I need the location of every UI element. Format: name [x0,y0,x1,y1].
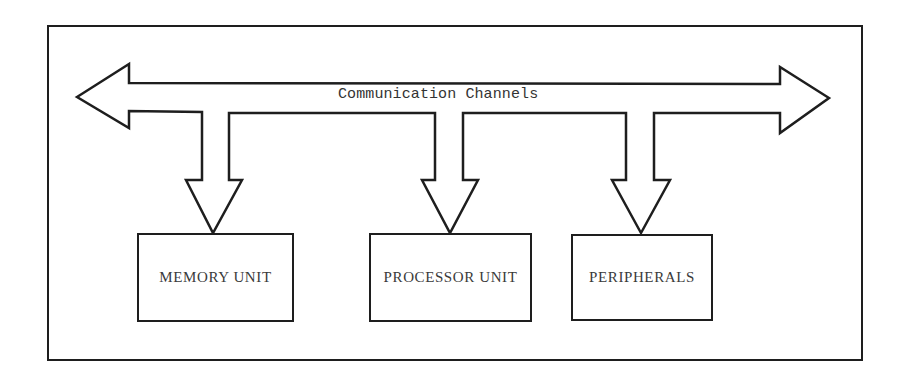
memory-unit-label: MEMORY UNIT [159,269,271,286]
bus-label: Communication Channels [338,86,538,103]
processor-unit-label: PROCESSOR UNIT [384,269,518,286]
diagram-canvas: Communication Channels MEMORY UNIT PROCE… [0,0,906,385]
processor-unit-box: PROCESSOR UNIT [369,233,532,322]
peripherals-label: PERIPHERALS [589,269,695,286]
memory-unit-box: MEMORY UNIT [137,233,294,322]
bus-arrow-shape [0,0,906,385]
peripherals-box: PERIPHERALS [571,234,713,321]
